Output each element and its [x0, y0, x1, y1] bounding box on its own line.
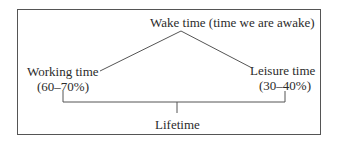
working-time-label: Working time [27, 64, 99, 79]
leisure-time-label: Leisure time [250, 63, 315, 78]
lifetime-label: Lifetime [155, 117, 200, 132]
right-branch-line [181, 31, 252, 68]
leisure-time-share: (30–40%) [259, 78, 311, 93]
left-branch-line [100, 31, 181, 71]
lifetime-bracket [63, 91, 285, 102]
wake-time-label: Wake time (time we are awake) [150, 15, 315, 30]
working-time-share: (60–70%) [37, 79, 89, 94]
